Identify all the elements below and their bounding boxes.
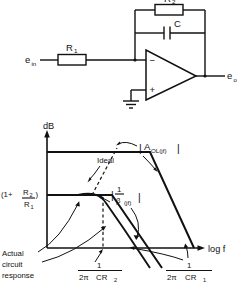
y-axis-arrowhead [44, 130, 50, 138]
breakpoint-cr2-denominator-post: CR [96, 273, 108, 282]
aol-bar-left: | [139, 142, 142, 154]
breakpoint-cr1-denominator-post: CR [185, 273, 197, 282]
resistor-r1-subscript: 1 [74, 47, 78, 54]
beta-bar-left: | [111, 189, 114, 201]
aol-bar-right: | [177, 142, 180, 154]
aol-leader-top [118, 142, 137, 146]
actual-response-leader-upper [38, 204, 78, 252]
breakpoint-cr2-denominator-pre: 2π [79, 273, 89, 282]
actual-response-line2: circuit [2, 260, 23, 269]
breakpoint-cr2-denominator-subscript: 2 [114, 277, 117, 283]
curve-open-loop-gain [47, 152, 194, 248]
output-label: e [227, 70, 232, 81]
resistor-r2-label: R [164, 0, 171, 4]
output-node-dot [203, 74, 206, 77]
gain-label-r2: R [23, 188, 29, 197]
breakpoint-cr2-label: 1 2π CR 2 [78, 249, 122, 283]
breakpoint-cr2-numerator: 1 [97, 261, 101, 270]
resistor-r2-body [155, 5, 183, 16]
resistor-r2-subscript: 2 [172, 0, 176, 5]
figure-canvas: R 2 C e in R 1 [0, 0, 240, 290]
bode-plot: dB log f (1+ R 2 R 1 ) [1, 121, 226, 283]
resistor-r1-label: R [66, 42, 73, 53]
aol-subscript: OL(jf) [151, 147, 166, 154]
input-label: e [25, 54, 30, 65]
annotation-open-loop-gain: | A OL(jf) | [116, 141, 180, 172]
y-axis-label: dB [43, 121, 54, 131]
annotation-ideal-leader [89, 166, 100, 180]
x-axis-label: log f [208, 244, 226, 254]
ground-branch [123, 90, 146, 108]
beta-subscript: (jf) [124, 199, 131, 206]
actual-response-line1: Actual [2, 249, 24, 258]
curve-ideal-one-over-beta [47, 195, 162, 268]
figure-root: R 2 C e in R 1 [0, 0, 240, 290]
breakpoint-cr1-numerator: 1 [187, 261, 191, 270]
circuit-schematic: R 2 C e in R 1 [25, 0, 238, 108]
gain-label-open-paren: (1+ [1, 190, 13, 199]
actual-response-line3: response [2, 271, 34, 280]
aol-arrowhead-top [116, 142, 121, 146]
plot-axes: dB log f [43, 121, 226, 254]
actual-response-arrowhead-upper [75, 201, 80, 206]
x-axis-arrowhead [198, 245, 206, 251]
inverting-input-marker: − [150, 55, 156, 66]
capacitor-c-label: C [174, 18, 181, 29]
noninverting-input-marker: + [150, 84, 156, 95]
resistor-r1-body [58, 55, 86, 66]
beta-bar-right: | [138, 191, 141, 203]
gain-label-r2-subscript: 2 [30, 192, 33, 198]
annotation-one-over-beta: | 1 β (jf) | [98, 185, 140, 240]
beta-arrowhead-down [134, 235, 140, 240]
aol-symbol: A [144, 141, 151, 152]
opamp-symbol: − + e o [135, 50, 238, 100]
annotation-actual-response: Actual circuit response [2, 201, 106, 280]
breakpoint-cr1-denominator-subscript: 1 [203, 277, 206, 283]
gain-tick-label: (1+ R 2 R 1 ) [1, 188, 39, 211]
beta-numerator: 1 [117, 185, 121, 194]
annotation-ideal-label: Ideal [97, 156, 114, 165]
gain-label-r1: R [24, 200, 30, 209]
output-label-subscript: o [234, 76, 238, 83]
feedback-capacitor-branch: C [135, 18, 205, 40]
gain-label-close-paren: ) [36, 190, 39, 199]
input-branch: e in R 1 [25, 42, 137, 67]
breakpoint-cr1-denominator-pre: 2π [167, 273, 177, 282]
gain-label-r1-subscript: 1 [31, 204, 34, 210]
actual-response-leader-lower [42, 228, 104, 262]
input-label-subscript: in [32, 60, 37, 67]
beta-denominator: β [116, 196, 121, 205]
